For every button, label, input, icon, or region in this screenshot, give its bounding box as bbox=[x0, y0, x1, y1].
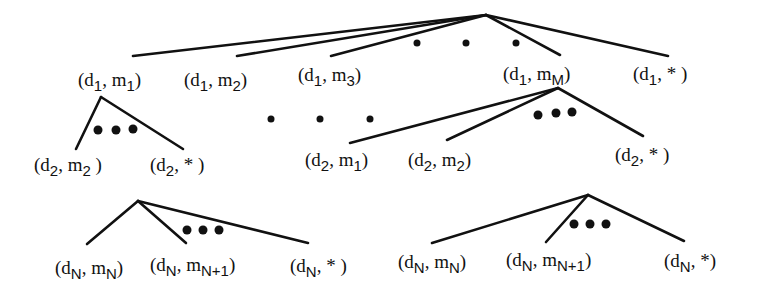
ellipsis-dot bbox=[534, 111, 543, 120]
level2-right-ellipsis bbox=[534, 108, 577, 120]
edge-d1m1-d2star bbox=[101, 97, 183, 149]
ellipsis-dot bbox=[463, 40, 470, 47]
node-left-dN-mN1: (dN, mN+1) bbox=[150, 255, 235, 274]
node-left-d2-m2: (d2, m2 ) bbox=[34, 155, 102, 174]
levelN-right-ellipsis bbox=[570, 220, 611, 229]
node-left-dN-star: (dN, * ) bbox=[290, 256, 347, 275]
node-right-dN-mN: (dN, mN) bbox=[398, 252, 466, 271]
node-right-d2-m2: (d2, m2) bbox=[408, 150, 471, 169]
levelN-right-edges bbox=[432, 195, 684, 243]
ellipsis-dot bbox=[568, 108, 577, 117]
level2-left-ellipsis bbox=[94, 125, 138, 135]
node-d1-m2: (d1, m2) bbox=[184, 70, 247, 89]
ellipsis-dot bbox=[586, 220, 595, 229]
ellipsis-dot bbox=[317, 116, 324, 123]
ellipsis-dot bbox=[602, 220, 611, 229]
edge-root-d1m1 bbox=[133, 15, 486, 56]
node-left-d2-star: (d2, * ) bbox=[150, 155, 204, 174]
ellipsis-dot bbox=[215, 226, 224, 235]
edge-d1mM-d2m1 bbox=[350, 88, 558, 143]
level2-left-edges bbox=[76, 97, 183, 149]
edge-root-d1m2 bbox=[237, 15, 486, 56]
node-right-dN-mN1: (dN, mN+1) bbox=[506, 250, 591, 269]
level1-edges bbox=[133, 15, 668, 56]
node-d1-m1: (d1, m1) bbox=[78, 70, 141, 89]
node-d1-star: (d1, * ) bbox=[633, 64, 687, 83]
ellipsis-dot bbox=[94, 126, 103, 135]
edge-root-d1star bbox=[486, 15, 668, 56]
edge-N-right-dNstar bbox=[588, 195, 684, 241]
levelN-left-edges bbox=[87, 201, 308, 244]
level1-ellipsis bbox=[414, 40, 520, 47]
ellipsis-dot bbox=[513, 40, 520, 47]
node-right-d2-star: (d2, * ) bbox=[615, 145, 669, 164]
ellipsis-dot bbox=[552, 109, 561, 118]
edge-N-left-dNmN bbox=[87, 201, 138, 244]
levelN-left-ellipsis bbox=[183, 226, 224, 235]
ellipsis-dot bbox=[414, 40, 421, 47]
node-d1-mM: (d1, mM) bbox=[503, 64, 570, 83]
ellipsis-dot bbox=[367, 116, 374, 123]
middle-ellipsis bbox=[268, 116, 374, 123]
ellipsis-dot bbox=[570, 220, 579, 229]
ellipsis-dot bbox=[112, 126, 121, 135]
edge-N-right-dNmN bbox=[432, 195, 588, 243]
edge-root-d1mM bbox=[486, 15, 560, 55]
node-right-dN-star: (dN, *) bbox=[664, 251, 716, 270]
edge-d1m1-d2m2 bbox=[76, 97, 101, 149]
node-left-dN-mN: (dN, mN) bbox=[55, 258, 123, 277]
level2-right-edges bbox=[350, 88, 643, 143]
ellipsis-dot bbox=[129, 125, 138, 134]
node-d1-m3: (d1, m3) bbox=[298, 65, 361, 84]
ellipsis-dot bbox=[268, 116, 275, 123]
ellipsis-dot bbox=[199, 226, 208, 235]
node-right-d2-m1: (d2, m1) bbox=[305, 150, 368, 169]
ellipsis-dot bbox=[183, 226, 192, 235]
